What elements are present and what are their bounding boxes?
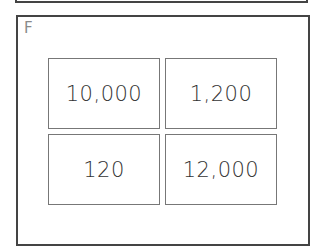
number-card[interactable]: 12,000 — [165, 134, 277, 205]
panel-f: F 10,000 1,200 120 12,000 — [16, 15, 310, 246]
panel-label: F — [24, 19, 33, 37]
number-card[interactable]: 120 — [48, 134, 160, 205]
number-card[interactable]: 1,200 — [165, 58, 277, 129]
previous-panel-frame — [15, 0, 308, 3]
number-card[interactable]: 10,000 — [48, 58, 160, 129]
